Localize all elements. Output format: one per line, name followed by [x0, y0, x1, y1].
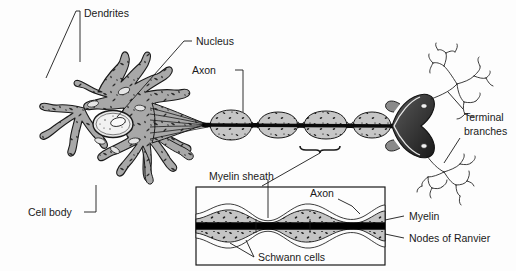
- neuron-diagram: Dendrites Nucleus Axon Terminal branches…: [0, 0, 516, 271]
- label-myelin: Myelin: [409, 210, 440, 222]
- label-nucleus: Nucleus: [196, 35, 234, 47]
- label-axon: Axon: [192, 64, 216, 76]
- label-nodes-of-ranvier: Nodes of Ranvier: [409, 232, 491, 244]
- label-dendrites: Dendrites: [84, 7, 129, 19]
- label-schwann-cells: Schwann cells: [258, 251, 325, 263]
- label-inset-axon: Axon: [310, 187, 334, 199]
- label-cell-body: Cell body: [28, 206, 73, 218]
- label-myelin-sheath: Myelin sheath: [209, 170, 274, 182]
- label-terminal-branches-line2: branches: [464, 125, 507, 137]
- label-layer: Dendrites Nucleus Axon Terminal branches…: [0, 0, 516, 271]
- label-terminal-branches-line1: Terminal: [464, 111, 504, 123]
